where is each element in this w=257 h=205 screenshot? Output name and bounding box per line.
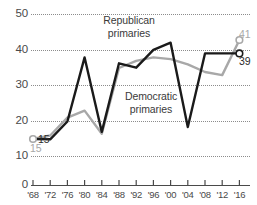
x-axis-tick-16: '16 — [228, 189, 250, 200]
point-label-democratic-end: 41 — [239, 28, 250, 40]
annotation-republican-line1: Republican — [103, 14, 155, 26]
point-label-democratic-start: 15 — [30, 142, 41, 154]
annotation-republican: Republican primaries — [90, 14, 168, 39]
annotation-republican-line2: primaries — [108, 27, 150, 39]
point-label-republican-end: 39 — [239, 55, 250, 67]
x-axis-ticks — [33, 180, 239, 186]
annotation-democratic: Democratic primaries — [112, 90, 190, 115]
annotation-democratic-line1: Democratic — [125, 90, 177, 102]
annotation-democratic-line2: primaries — [130, 103, 172, 115]
line-chart: 50 40 30 20 10 0 — [0, 0, 257, 205]
